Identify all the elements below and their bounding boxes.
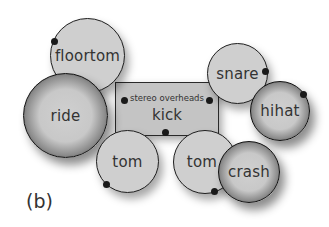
floortom-mic-icon [51,38,58,45]
kick-mic-icon [162,129,169,136]
drum-label: snare [216,65,259,83]
cymbal-crash: crash [218,141,280,203]
figure-caption: (b) [26,190,53,212]
overhead-mic-left-icon [121,97,128,104]
stereo-overheads-label: stereo overheads [116,93,218,103]
kick-box: stereo overheads kick [115,82,219,136]
drum-label: ride [51,107,81,125]
tom-1-mic-icon [103,181,110,188]
drum-label: crash [228,163,270,181]
cymbal-hihat: hihat [250,81,310,141]
kick-label: kick [116,106,218,124]
drum-label: floortom [55,47,120,65]
hihat-mic-icon [300,91,307,98]
snare-mic-icon [262,68,269,75]
overhead-mic-right-icon [206,97,213,104]
tom-2-mic-icon [211,188,218,195]
drum-mic-layout-diagram: stereo overheads kick floortom ride snar… [0,0,329,227]
cymbal-ride: ride [23,73,108,158]
drum-label: tom [187,153,217,171]
drum-label: tom [112,153,142,171]
drum-label: hihat [260,102,299,120]
